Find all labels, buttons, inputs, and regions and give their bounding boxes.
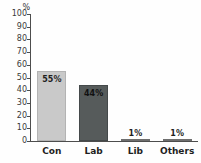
bar-slot: 44% xyxy=(73,14,115,141)
bar-others xyxy=(163,139,192,141)
bar-lab: 44% xyxy=(79,85,108,141)
y-axis-tick-mark xyxy=(27,27,30,28)
x-axis-label-con: Con xyxy=(31,146,73,156)
bar-value-label: 44% xyxy=(80,89,107,98)
bar-slot: 1% xyxy=(115,14,157,141)
y-axis-tick-label: 60 xyxy=(2,61,27,69)
y-axis-tick-mark xyxy=(27,116,30,117)
y-axis-tick-label: 40 xyxy=(2,86,27,94)
y-axis-tick-label: 100 xyxy=(2,10,27,18)
x-axis-label-lab: Lab xyxy=(73,146,115,156)
y-axis-tick-label: 30 xyxy=(2,99,27,107)
y-axis-tick-label: 70 xyxy=(2,48,27,56)
y-axis-tick-mark xyxy=(27,39,30,40)
plot-area: 55%44%1%1% xyxy=(31,14,198,141)
y-axis-tick-mark xyxy=(27,103,30,104)
y-axis-tick-mark xyxy=(27,90,30,91)
y-axis-tick-mark xyxy=(27,141,30,142)
y-axis-tick-mark xyxy=(27,78,30,79)
x-axis-label-lib: Lib xyxy=(115,146,157,156)
y-axis-tick-mark xyxy=(27,65,30,66)
y-axis-tick-label: 0 xyxy=(2,137,27,145)
y-axis-tick-label: 50 xyxy=(2,74,27,82)
bar-slot: 55% xyxy=(31,14,73,141)
bar-value-label: 1% xyxy=(115,129,157,138)
bar-lib xyxy=(121,139,150,141)
x-axis-line xyxy=(30,141,198,142)
y-axis-tick-mark xyxy=(27,128,30,129)
y-axis-tick-label: 10 xyxy=(2,124,27,132)
bar-chart: % 1009080706050403020100 55%44%1%1% ConL… xyxy=(0,0,201,163)
y-axis-tick-label: 90 xyxy=(2,23,27,31)
x-axis-label-others: Others xyxy=(156,146,198,156)
y-axis-tick-mark xyxy=(27,52,30,53)
bar-con: 55% xyxy=(37,71,66,141)
y-axis-tick-mark xyxy=(27,14,30,15)
bar-slot: 1% xyxy=(156,14,198,141)
y-axis-tick-label: 20 xyxy=(2,112,27,120)
y-axis-tick-label: 80 xyxy=(2,35,27,43)
bar-value-label: 1% xyxy=(156,129,198,138)
bar-value-label: 55% xyxy=(38,75,65,84)
